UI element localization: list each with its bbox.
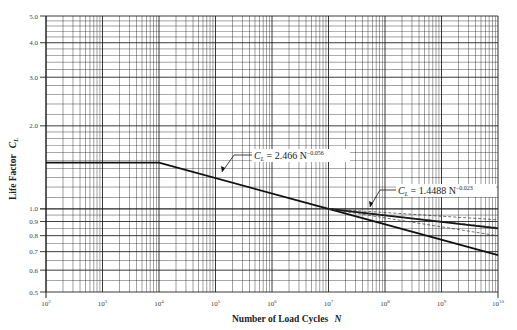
y-tick-label: 3.0	[29, 74, 38, 82]
x-tick-label: 106	[267, 299, 277, 308]
y-tick-label: 4.0	[29, 39, 38, 47]
x-tick-label: 109	[437, 299, 447, 308]
life-factor-chart: 0.50.60.70.80.91.02.03.04.05.01021031041…	[0, 0, 517, 330]
y-tick-label: 0.6	[29, 267, 38, 275]
x-tick-label: 107	[324, 299, 334, 308]
y-tick-label: 0.8	[29, 232, 38, 240]
x-axis-title: Number of Load Cycles N	[232, 314, 343, 324]
y-tick-label: 5.0	[29, 13, 38, 21]
y-tick-label: 0.7	[29, 248, 38, 256]
x-tick-label: 104	[154, 299, 164, 308]
y-tick-label: 1.0	[29, 205, 38, 213]
y-axis-title: Life Factor CL	[8, 138, 19, 200]
x-tick-label: 102	[41, 299, 51, 308]
y-tick-label: 2.0	[29, 122, 38, 130]
x-tick-label: 103	[98, 299, 108, 308]
y-tick-label: 0.5	[29, 289, 38, 297]
x-tick-label: 108	[380, 299, 390, 308]
x-tick-label: 1010	[492, 299, 505, 308]
y-tick-label: 0.9	[29, 218, 38, 226]
x-tick-label: 105	[211, 299, 221, 308]
